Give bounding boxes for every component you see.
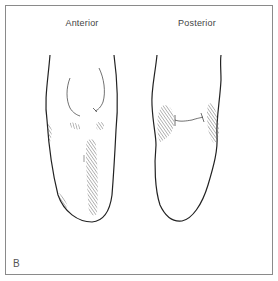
posterior-stump bbox=[152, 55, 221, 221]
stump-diagram bbox=[0, 0, 278, 281]
anterior-stump bbox=[46, 55, 117, 222]
